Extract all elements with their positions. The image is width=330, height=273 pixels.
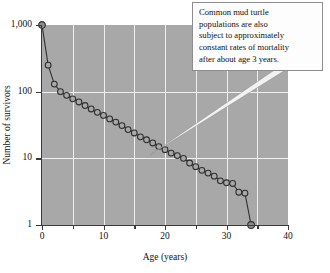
data-point xyxy=(236,189,242,195)
data-point xyxy=(58,89,64,95)
y-tick-label: 1 xyxy=(27,220,32,230)
data-point xyxy=(224,180,230,186)
x-tick-minor xyxy=(134,225,135,229)
annotation-callout: Common mud turtle populations are also s… xyxy=(192,2,323,71)
data-point xyxy=(88,106,94,112)
y-tick: 100 xyxy=(36,92,41,93)
data-point xyxy=(199,167,205,173)
data-point xyxy=(181,155,187,161)
data-point xyxy=(205,170,211,176)
x-tick-label: 30 xyxy=(222,232,232,242)
data-point xyxy=(211,173,217,179)
x-tick-minor xyxy=(196,225,197,229)
data-point xyxy=(82,103,88,109)
x-tick-label: 40 xyxy=(283,232,293,242)
x-axis-title-label: Age (years) xyxy=(143,252,188,262)
y-tick-label: 10 xyxy=(23,154,33,164)
y-axis-title-label: Number of survivors xyxy=(2,85,12,164)
x-axis-title: Age (years) xyxy=(42,252,288,262)
y-tick-label: 1,000 xyxy=(11,20,32,30)
annotation-line: after about age 3 years. xyxy=(199,54,317,66)
x-tick: 20 xyxy=(165,225,166,230)
data-point xyxy=(125,127,131,133)
data-point xyxy=(94,109,100,115)
x-axis: 0 10 20 30 40 xyxy=(41,225,289,226)
annotation-line: subject to approximately xyxy=(199,30,317,42)
y-tick-label: 100 xyxy=(18,87,32,97)
data-point xyxy=(64,92,70,98)
y-axis: 1,000 100 10 1 xyxy=(41,25,42,225)
data-point xyxy=(187,160,193,166)
y-axis-title: Number of survivors xyxy=(0,25,13,225)
data-point xyxy=(230,181,236,187)
data-point xyxy=(76,99,82,105)
data-point xyxy=(193,164,199,170)
data-point xyxy=(242,190,248,196)
data-point xyxy=(107,116,113,122)
data-point xyxy=(217,178,223,184)
data-point xyxy=(101,113,107,119)
data-point xyxy=(119,123,125,129)
x-tick-label: 0 xyxy=(40,232,45,242)
data-point xyxy=(45,62,51,68)
data-point xyxy=(138,134,144,140)
y-tick: 10 xyxy=(36,158,41,159)
data-point xyxy=(70,96,76,102)
y-tick: 1,000 xyxy=(36,25,41,26)
x-tick: 40 xyxy=(288,225,289,230)
annotation-line: Common mud turtle xyxy=(199,7,317,19)
x-tick-minor xyxy=(73,225,74,229)
data-point xyxy=(51,81,57,87)
data-point xyxy=(131,130,137,136)
x-tick-label: 20 xyxy=(160,232,170,242)
data-point xyxy=(144,137,150,143)
x-tick: 0 xyxy=(42,225,43,230)
data-point xyxy=(113,119,119,125)
x-tick: 10 xyxy=(104,225,105,230)
x-tick-minor xyxy=(257,225,258,229)
annotation-line: populations are also xyxy=(199,19,317,31)
x-tick-label: 10 xyxy=(99,232,109,242)
x-tick: 30 xyxy=(227,225,228,230)
survivorship-curve-figure: 1,000 100 10 1 0 10 20 30 40 xyxy=(0,0,330,273)
annotation-line: constant rates of mortality xyxy=(199,42,317,54)
